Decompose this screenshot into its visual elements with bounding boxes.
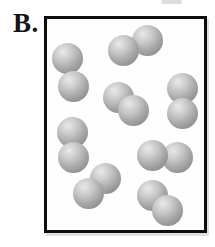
particle-box — [44, 16, 207, 233]
scan-artifact — [161, 0, 182, 4]
figure-label: B. — [13, 10, 39, 37]
figure-page: B. — [0, 0, 215, 247]
